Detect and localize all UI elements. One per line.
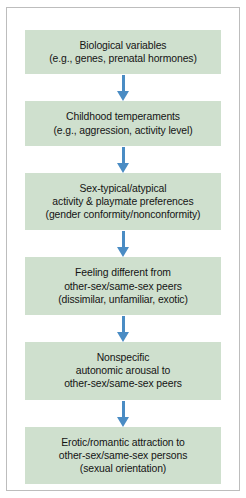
arrow-head — [117, 417, 129, 427]
flow-node-nonspecific-autonomic-arousal: Nonspecific autonomic arousal to other-s… — [25, 342, 221, 400]
flow-node-line: (gender conformity/nonconformity) — [31, 208, 215, 221]
flowchart-figure: Biological variables (e.g., genes, prena… — [0, 0, 246, 498]
flow-node-line: (e.g., genes, prenatal hormones) — [31, 52, 215, 65]
flow-node-line: (sexual orientation) — [31, 462, 215, 475]
flow-node-line: other-sex/same-sex peers — [31, 280, 215, 293]
arrow-down-icon — [25, 230, 221, 257]
arrow-head — [117, 91, 129, 101]
arrow-head — [117, 163, 129, 173]
flowchart-flow: Biological variables (e.g., genes, prena… — [25, 30, 221, 484]
flow-node-line: (e.g., aggression, activity level) — [31, 124, 215, 137]
flow-node-line: autonomic arousal to — [31, 364, 215, 377]
flow-node-line: Childhood temperaments — [31, 110, 215, 123]
flow-node-line: (dissimilar, unfamiliar, exotic) — [31, 293, 215, 306]
flow-node-line: Nonspecific — [31, 351, 215, 364]
flow-node-biological-variables: Biological variables (e.g., genes, prena… — [25, 30, 221, 74]
arrow-down-icon — [25, 74, 221, 101]
flow-node-line: other-sex/same-sex peers — [31, 377, 215, 390]
arrow-down-icon — [25, 146, 221, 173]
flow-node-feeling-different: Feeling different from other-sex/same-se… — [25, 257, 221, 315]
arrow-head — [117, 247, 129, 257]
arrow-down-icon — [25, 400, 221, 427]
flow-node-line: other-sex/same-sex persons — [31, 449, 215, 462]
flow-node-line: Biological variables — [31, 39, 215, 52]
flow-node-line: Sex-typical/atypical — [31, 182, 215, 195]
flow-node-line: Feeling different from — [31, 266, 215, 279]
flow-node-erotic-romantic-attraction: Erotic/romantic attraction to other-sex/… — [25, 427, 221, 485]
flow-node-line: activity & playmate preferences — [31, 195, 215, 208]
flow-node-sex-typical-atypical-preferences: Sex-typical/atypical activity & playmate… — [25, 173, 221, 231]
arrow-down-icon — [25, 315, 221, 342]
flow-node-line: Erotic/romantic attraction to — [31, 436, 215, 449]
arrow-head — [117, 332, 129, 342]
flow-node-childhood-temperaments: Childhood temperaments (e.g., aggression… — [25, 101, 221, 145]
